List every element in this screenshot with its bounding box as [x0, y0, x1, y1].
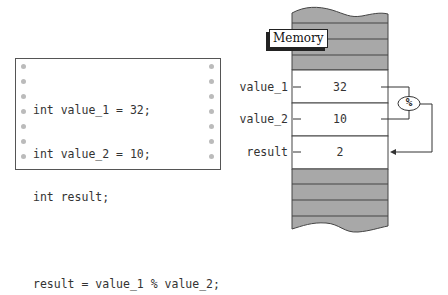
code-listing: int value_1 = 32; int value_2 = 10; int …: [33, 74, 220, 295]
memory-title: Memory: [269, 29, 328, 48]
label-value2: value_2: [218, 112, 288, 126]
label-value1: value_1: [218, 80, 288, 94]
memory-bottom-block: [292, 169, 388, 232]
operator-symbol: %: [403, 96, 415, 109]
punch-holes-left: [20, 59, 28, 169]
code-card: int value_1 = 32; int value_2 = 10; int …: [15, 58, 221, 170]
value-value1: 32: [292, 80, 388, 94]
value-value2: 10: [292, 112, 388, 126]
code-line: int result;: [33, 190, 220, 205]
value-result: 2: [292, 145, 388, 159]
code-line: int value_2 = 10;: [33, 147, 220, 162]
label-result: result: [218, 145, 288, 159]
code-line: [33, 234, 220, 249]
code-line: int value_1 = 32;: [33, 103, 220, 118]
code-line: result = value_1 % value_2;: [33, 277, 220, 292]
arrow-head-icon: [390, 149, 396, 155]
